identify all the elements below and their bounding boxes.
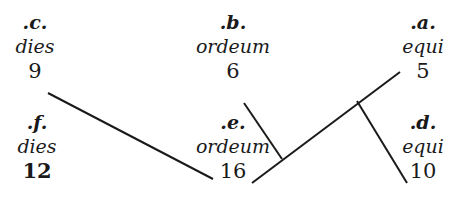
node-number: 16: [188, 159, 278, 183]
node-label: .e.: [188, 110, 278, 134]
node-number: 5: [378, 59, 464, 83]
node-f: .f. dies 12: [0, 110, 82, 183]
node-label: .f.: [0, 110, 82, 134]
node-word: equi: [378, 134, 464, 159]
node-word: ordeum: [188, 134, 278, 159]
node-number: 12: [0, 159, 82, 183]
node-d: .d. equi 10: [378, 110, 464, 183]
node-b: .b. ordeum 6: [188, 10, 278, 83]
node-number: 9: [0, 59, 80, 83]
node-label: .c.: [0, 10, 80, 34]
node-label: .b.: [188, 10, 278, 34]
node-word: dies: [0, 34, 80, 59]
node-e: .e. ordeum 16: [188, 110, 278, 183]
node-c: .c. dies 9: [0, 10, 80, 83]
node-label: .d.: [378, 110, 464, 134]
node-word: ordeum: [188, 34, 278, 59]
node-a: .a. equi 5: [378, 10, 464, 83]
node-word: equi: [378, 34, 464, 59]
node-word: dies: [0, 134, 82, 159]
node-number: 6: [188, 59, 278, 83]
node-number: 10: [378, 159, 464, 183]
node-label: .a.: [378, 10, 464, 34]
